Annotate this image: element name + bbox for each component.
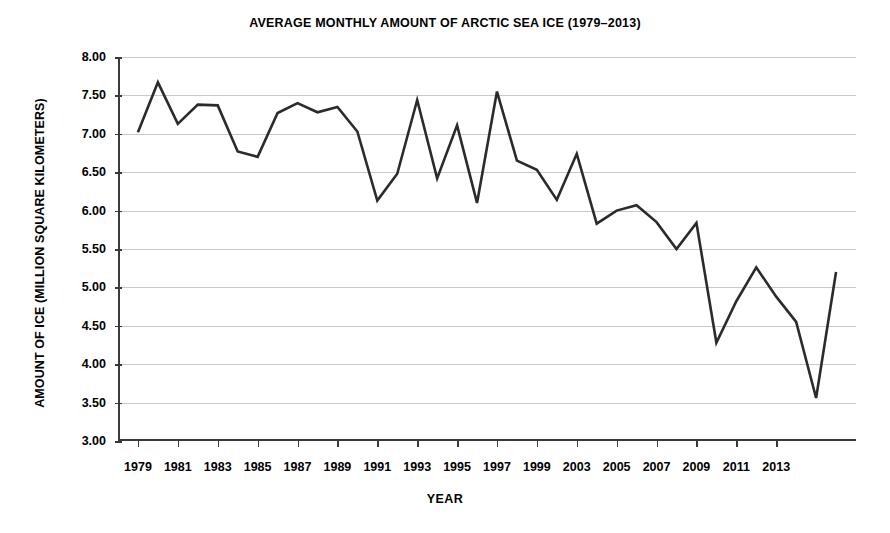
x-tick-label: 1997 bbox=[483, 460, 511, 474]
x-tick-label: 1979 bbox=[124, 460, 152, 474]
y-tick-label: 4.50 bbox=[48, 320, 106, 333]
data-series-line bbox=[118, 57, 856, 441]
x-tick-mark bbox=[298, 441, 300, 447]
x-tick-label: 2009 bbox=[683, 460, 711, 474]
x-tick-label: 1985 bbox=[244, 460, 272, 474]
x-tick-mark bbox=[258, 441, 260, 447]
x-tick-mark bbox=[537, 441, 539, 447]
x-tick-label: 1989 bbox=[323, 460, 351, 474]
x-axis-title: YEAR bbox=[0, 492, 890, 506]
x-tick-mark bbox=[497, 441, 499, 447]
y-tick-label: 7.50 bbox=[48, 89, 106, 102]
y-axis-title: AMOUNT OF ICE (MILLION SQUARE KILOMETERS… bbox=[33, 43, 47, 463]
x-tick-mark bbox=[337, 441, 339, 447]
x-tick-mark bbox=[417, 441, 419, 447]
x-tick-label: 2011 bbox=[723, 460, 750, 474]
x-tick-mark bbox=[657, 441, 659, 447]
x-tick-label: 2013 bbox=[762, 460, 790, 474]
y-tick-mark bbox=[115, 441, 122, 443]
chart-title: AVERAGE MONTHLY AMOUNT OF ARCTIC SEA ICE… bbox=[0, 16, 890, 30]
x-tick-mark bbox=[736, 441, 738, 447]
y-tick-label: 3.50 bbox=[48, 397, 106, 410]
x-tick-mark bbox=[577, 441, 579, 447]
x-tick-mark bbox=[218, 441, 220, 447]
x-tick-mark bbox=[457, 441, 459, 447]
y-tick-label: 8.00 bbox=[48, 51, 106, 64]
x-tick-mark bbox=[696, 441, 698, 447]
x-tick-label: 1995 bbox=[443, 460, 471, 474]
y-tick-label: 7.00 bbox=[48, 128, 106, 141]
y-tick-label: 6.00 bbox=[48, 205, 106, 218]
x-tick-label: 1993 bbox=[403, 460, 431, 474]
plot-area bbox=[118, 57, 856, 441]
x-tick-label: 2007 bbox=[643, 460, 671, 474]
x-tick-mark bbox=[776, 441, 778, 447]
y-tick-label: 4.00 bbox=[48, 358, 106, 371]
x-tick-label: 1999 bbox=[523, 460, 551, 474]
x-tick-mark bbox=[617, 441, 619, 447]
x-tick-label: 1981 bbox=[164, 460, 192, 474]
y-tick-label: 6.50 bbox=[48, 166, 106, 179]
x-tick-label: 1983 bbox=[204, 460, 232, 474]
x-tick-label: 1991 bbox=[363, 460, 391, 474]
chart-container: AVERAGE MONTHLY AMOUNT OF ARCTIC SEA ICE… bbox=[0, 0, 890, 533]
x-tick-mark bbox=[138, 441, 140, 447]
x-tick-mark bbox=[377, 441, 379, 447]
x-tick-label: 1987 bbox=[284, 460, 312, 474]
x-tick-label: 2005 bbox=[603, 460, 631, 474]
y-tick-label: 3.00 bbox=[48, 435, 106, 448]
x-tick-mark bbox=[178, 441, 180, 447]
y-tick-label: 5.00 bbox=[48, 281, 106, 294]
x-tick-label: 2003 bbox=[563, 460, 591, 474]
y-tick-label: 5.50 bbox=[48, 243, 106, 256]
